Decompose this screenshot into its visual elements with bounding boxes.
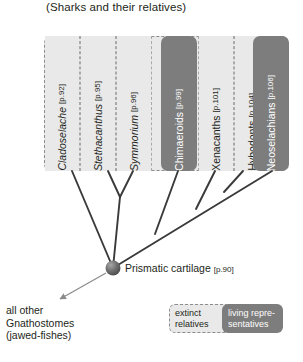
legend-living-text: living repre- sentatives [228,308,275,329]
legend-extinct-text: extinct relatives [175,308,209,329]
branch-symmorium [120,171,133,197]
branch-xenacanths [196,171,215,209]
legend-living-line-2: sentatives [228,319,269,329]
outgroup-label: all other Gnathostomes (jawed-fishes) [6,304,74,342]
outgroup-line-2: Gnathostomes [6,317,74,330]
branch-stethacanthus [108,171,120,197]
diagram-canvas: (Sharks and their relatives) Cladoselach… [0,0,303,362]
legend-extinct-line-1: extinct [175,308,201,318]
legend-item-living: living repre- sentatives [222,304,283,333]
root-node-label: Prismatic cartilage [125,262,211,274]
root-node-marker[interactable] [106,261,121,276]
legend-extinct-line-2: relatives [175,319,209,329]
branch-chimaeroids [155,171,178,234]
branch-backbone [113,171,272,268]
root-node-page-ref: [p.90] [214,265,234,274]
legend-living-line-1: living repre- [228,308,275,318]
outgroup-line-1: all other [6,304,74,317]
legend: extinct relatives living repre- sentativ… [169,304,283,333]
branch-cladoselache [72,171,113,268]
outgroup-arrow [60,273,106,299]
branch-symmoriiform-stem [113,197,120,268]
branch-hybodonts [224,171,243,192]
outgroup-line-3: (jawed-fishes) [6,329,74,342]
root-node-caption: Prismatic cartilage [p.90] [125,262,234,274]
